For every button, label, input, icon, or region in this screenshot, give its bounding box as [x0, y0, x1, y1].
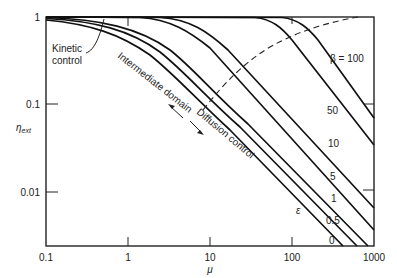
annotations: Kineticcontrol Intermediate domain Diffu…	[52, 19, 364, 246]
y-tick-label: 1	[34, 12, 40, 23]
beta-5-label: 5	[330, 171, 336, 182]
x-tick-label: 1	[125, 252, 131, 263]
curve-eps-1	[46, 18, 368, 247]
arrow-right-icon	[190, 121, 204, 135]
x-tick-label: 0.1	[39, 252, 53, 263]
plot-frame	[46, 17, 374, 246]
beta-10-label: 10	[328, 138, 340, 149]
beta-100-label: β = 100	[330, 53, 364, 64]
x-tick-label: 10	[204, 252, 216, 263]
eps-0-label: 0	[329, 235, 335, 246]
y-tick-label: 0.1	[26, 99, 40, 110]
eps-symbol-label: ε	[296, 205, 301, 216]
y-tick-label: 0.01	[21, 187, 41, 198]
eps-1-label: 1	[331, 193, 337, 204]
chart: 0.1 1 10 100 1000 μ 1 0.1 0.01 ηext	[0, 0, 397, 278]
x-axis-label: μ	[206, 264, 213, 275]
curves	[46, 17, 374, 246]
y-axis-label: ηext	[16, 122, 32, 134]
kinetic-control-label: Kineticcontrol	[52, 43, 82, 66]
x-tick-label: 100	[284, 252, 301, 263]
x-tick-label: 1000	[363, 252, 386, 263]
eps-0.5-label: 0.5	[326, 215, 340, 226]
beta-50-label: 50	[327, 105, 339, 116]
curve-beta-100	[46, 17, 374, 118]
